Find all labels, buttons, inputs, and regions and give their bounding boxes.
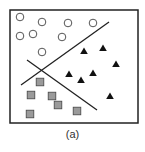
- open-circle-icon: [29, 30, 37, 38]
- triangle-class-markers: [65, 45, 120, 100]
- gray-square-icon: [48, 92, 56, 100]
- gray-square-icon: [36, 78, 44, 86]
- gray-square-icon: [27, 91, 35, 99]
- open-circle-icon: [38, 18, 46, 26]
- filled-triangle-icon: [106, 93, 114, 100]
- gray-square-icon: [73, 107, 81, 115]
- filled-triangle-icon: [99, 45, 107, 52]
- filled-triangle-icon: [112, 61, 120, 68]
- square-class-markers: [26, 78, 81, 118]
- open-circle-icon: [38, 48, 46, 56]
- gray-square-icon: [54, 101, 62, 109]
- open-circle-icon: [16, 32, 24, 40]
- open-circle-icon: [58, 33, 66, 41]
- open-circle-icon: [16, 13, 24, 21]
- filled-triangle-icon: [89, 70, 97, 77]
- figure-caption: (a): [0, 128, 145, 140]
- filled-triangle-icon: [77, 77, 85, 84]
- filled-triangle-icon: [80, 48, 88, 55]
- open-circle-icon: [64, 19, 72, 27]
- filled-triangle-icon: [65, 71, 73, 78]
- gray-square-icon: [26, 110, 34, 118]
- open-circle-icon: [89, 19, 97, 27]
